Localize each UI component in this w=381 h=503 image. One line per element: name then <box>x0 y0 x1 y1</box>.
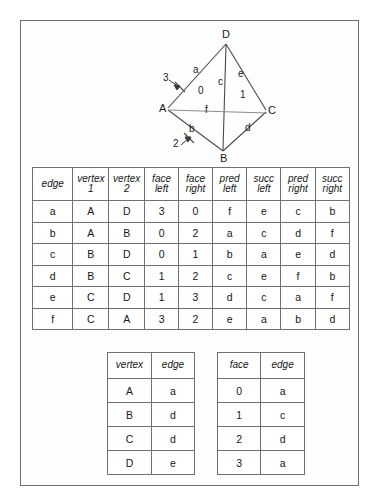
cell: c <box>247 287 281 309</box>
cell: a <box>281 287 315 309</box>
face-table-header-row: face edge <box>218 353 305 379</box>
table-row: d B C 1 2 c e f b <box>33 265 350 287</box>
cell: d <box>213 287 247 309</box>
edge-f-line <box>168 110 267 113</box>
cell: 3 <box>145 201 179 223</box>
table-row: f C A 3 2 e a b d <box>33 308 350 330</box>
vertex-label-B: B <box>220 153 227 163</box>
face-label-3: 3 <box>163 73 169 83</box>
cell: c <box>261 403 305 427</box>
header-face-left-line1: face <box>152 173 171 184</box>
cell: d <box>281 222 315 244</box>
edge-table-header-row: edge vertex 1 vertex 2 face left <box>33 168 350 201</box>
cell: b <box>33 222 73 244</box>
cell: e <box>213 308 247 330</box>
cell: a <box>151 379 194 403</box>
header-vertex-2-line1: vertex <box>113 173 140 184</box>
cell: 3 <box>145 308 179 330</box>
cell: f <box>213 201 247 223</box>
cell: B <box>73 265 109 287</box>
header-vertex-2-line2: 2 <box>124 183 130 194</box>
table-row: B d <box>108 403 195 427</box>
edge-table: edge vertex 1 vertex 2 face left <box>32 167 350 330</box>
cell: C <box>73 308 109 330</box>
cell: b <box>315 201 349 223</box>
cell: 3 <box>179 287 213 309</box>
cell: b <box>315 265 349 287</box>
cell: a <box>33 201 73 223</box>
header-face-right-line1: face <box>186 173 205 184</box>
header-succ-right: succ right <box>315 168 349 201</box>
header-face: face <box>218 353 261 379</box>
edge-label-a: a <box>193 65 199 75</box>
cell: c <box>247 222 281 244</box>
cell: 2 <box>179 222 213 244</box>
header-edge: edge <box>33 168 73 201</box>
vertex-label-D: D <box>222 29 230 39</box>
table-row: 0 a <box>218 379 305 403</box>
header-vertex-1: vertex 1 <box>73 168 109 201</box>
cell: a <box>261 379 305 403</box>
header-succ-left: succ left <box>247 168 281 201</box>
cell: d <box>151 403 194 427</box>
table-row: c B D 0 1 b a e d <box>33 244 350 266</box>
vertex-table-container: vertex edge A a B d C d D <box>107 352 195 475</box>
cell: b <box>281 308 315 330</box>
cell: f <box>33 308 73 330</box>
cell: e <box>281 244 315 266</box>
edge-table-container: edge vertex 1 vertex 2 face left <box>32 167 350 330</box>
cell: 1 <box>179 244 213 266</box>
cell: A <box>73 222 109 244</box>
header-face-right-line2: right <box>186 183 205 194</box>
header-face-left-line2: left <box>155 183 168 194</box>
header-pred-left: pred left <box>213 168 247 201</box>
orientation-arrows <box>169 80 191 145</box>
cell: e <box>151 451 194 475</box>
cell: c <box>281 201 315 223</box>
header-face-right: face right <box>179 168 213 201</box>
cell: 0 <box>145 244 179 266</box>
cell: e <box>33 287 73 309</box>
cell: B <box>73 244 109 266</box>
cell: B <box>108 403 152 427</box>
cell: f <box>315 222 349 244</box>
table-row: 1 c <box>218 403 305 427</box>
cell: c <box>33 244 73 266</box>
vertex-table-header-row: vertex edge <box>108 353 195 379</box>
edge-label-d: d <box>245 123 251 133</box>
cell: 0 <box>179 201 213 223</box>
edge-e-line <box>226 44 266 110</box>
header-succ-left-line2: left <box>257 183 270 194</box>
cell: C <box>73 287 109 309</box>
table-row: D e <box>108 451 195 475</box>
face-label-2: 2 <box>173 139 179 149</box>
cell: C <box>108 427 152 451</box>
edge-label-e: e <box>238 69 244 79</box>
header-edge-line1: edge <box>42 178 64 189</box>
cell: f <box>315 287 349 309</box>
cell: 2 <box>218 427 261 451</box>
cell: e <box>247 265 281 287</box>
vertex-label-C: C <box>268 105 276 115</box>
header-vertex-1-line1: vertex <box>77 173 104 184</box>
cell: 2 <box>179 265 213 287</box>
graph-edges <box>168 44 267 151</box>
table-row: e C D 1 3 d c a f <box>33 287 350 309</box>
cell: D <box>109 244 145 266</box>
header-vertex-2: vertex 2 <box>109 168 145 201</box>
edge-c-line <box>223 44 226 150</box>
cell: c <box>213 265 247 287</box>
cell: 3 <box>218 451 261 475</box>
figure-frame: D A C B a c e f b d 0 1 2 3 edge vertex … <box>20 20 359 486</box>
cell: A <box>109 308 145 330</box>
cell: 0 <box>145 222 179 244</box>
table-row: A a <box>108 379 195 403</box>
header-vertex-1-line2: 1 <box>88 183 94 194</box>
edge-label-c: c <box>218 77 223 87</box>
arrow-3-head <box>174 85 180 90</box>
cell: d <box>151 427 194 451</box>
header-pred-left-line1: pred <box>220 173 240 184</box>
cell: 1 <box>145 287 179 309</box>
cell: a <box>247 244 281 266</box>
header-face-left: face left <box>145 168 179 201</box>
